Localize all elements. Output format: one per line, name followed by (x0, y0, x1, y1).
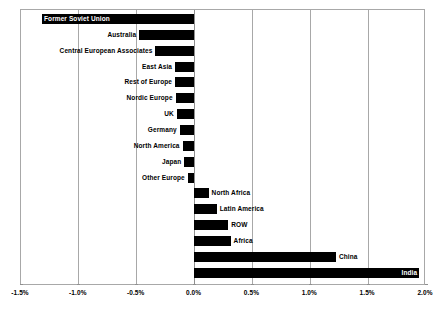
bar-category-label: Japan (162, 157, 181, 167)
bar-category-label: Australia (107, 30, 136, 40)
x-axis-tick-label: 0.5% (244, 289, 259, 296)
bar-category-label: Other Europe (142, 173, 185, 183)
x-axis-tick-label: 1.5% (360, 289, 375, 296)
bar (194, 204, 217, 214)
bar (184, 157, 193, 167)
bar (175, 77, 194, 87)
x-axis-tick-label: -1.5% (11, 289, 28, 296)
bar-category-label: Central European Associates (60, 46, 153, 56)
bar (139, 30, 193, 40)
bar (175, 62, 194, 72)
bars-layer: Former Soviet UnionAustraliaCentral Euro… (20, 9, 425, 285)
x-axis-tick-labels: -1.5%-1.0%-0.5%0.0%0.5%1.0%1.5%2.0% (0, 289, 443, 303)
bar-category-label: China (339, 252, 358, 262)
x-axis-tick-label: 2.0% (417, 289, 432, 296)
x-axis-tick-label: -0.5% (127, 289, 144, 296)
bar (194, 268, 420, 278)
bar-category-label: UK (164, 109, 174, 119)
bar (194, 220, 229, 230)
bar-category-label: ROW (231, 220, 247, 230)
bar (183, 141, 194, 151)
bar-category-label: North Africa (212, 188, 251, 198)
bar (194, 188, 209, 198)
bar-chart: Former Soviet UnionAustraliaCentral Euro… (0, 0, 443, 317)
bar-category-label: Former Soviet Union (44, 14, 110, 24)
x-axis-tick-label: 0.0% (186, 289, 201, 296)
bar (180, 125, 194, 135)
bar-category-label: Nordic Europe (127, 93, 173, 103)
bar (177, 109, 194, 119)
bar-category-label: North America (134, 141, 180, 151)
bar-category-label: India (402, 268, 418, 278)
bar (188, 173, 194, 183)
x-axis-tick-label: 1.0% (302, 289, 317, 296)
bar-category-label: Germany (148, 125, 177, 135)
x-axis-tick-label: -1.0% (69, 289, 86, 296)
bar-category-label: East Asia (142, 62, 172, 72)
bar-category-label: Africa (234, 236, 253, 246)
bar (176, 93, 194, 103)
bar-category-label: Latin America (220, 204, 264, 214)
bar (194, 236, 231, 246)
bar-category-label: Rest of Europe (124, 77, 172, 87)
bar (194, 252, 336, 262)
bar (155, 46, 193, 56)
